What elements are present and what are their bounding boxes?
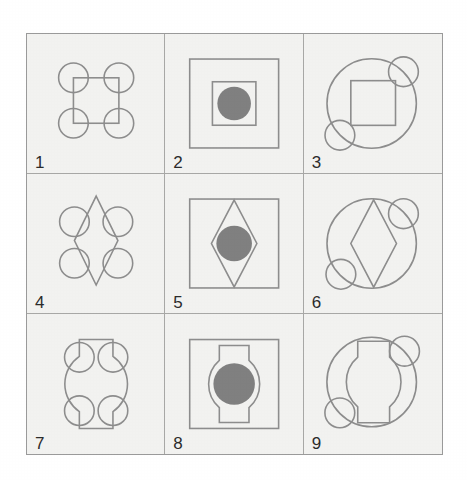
puzzle-cell-2[interactable]: 2	[165, 34, 303, 174]
cell-number-8: 8	[173, 435, 182, 452]
big-circle-shape	[327, 337, 417, 427]
puzzle-cell-4[interactable]: 4	[27, 174, 165, 314]
puzzle-cell-5[interactable]: 5	[165, 174, 303, 314]
cell-number-3: 3	[312, 154, 321, 171]
corner-circle-top-right	[103, 207, 133, 237]
cell-number-2: 2	[173, 154, 182, 171]
cell-number-7: 7	[35, 435, 44, 452]
cell-number-5: 5	[173, 294, 182, 311]
big-circle-shape	[327, 59, 416, 148]
center-dot	[218, 87, 252, 121]
cell-number-1: 1	[35, 154, 44, 171]
barrel-shape	[65, 340, 128, 429]
square-shape	[73, 78, 118, 123]
cell-9-graphic	[304, 314, 442, 454]
small-circle-bottom-left	[326, 259, 356, 289]
cell-4-graphic	[27, 174, 164, 313]
cell-number-6: 6	[312, 294, 321, 311]
puzzle-cell-9[interactable]: 9	[304, 314, 442, 454]
cell-8-graphic	[165, 314, 302, 454]
cell-1-graphic	[27, 34, 164, 173]
cell-2-graphic	[165, 34, 302, 173]
cell-number-4: 4	[35, 294, 44, 311]
corner-circle-top-left	[60, 207, 90, 237]
cell-3-graphic	[304, 34, 442, 173]
puzzle-grid: 1 2 3	[26, 33, 443, 455]
big-circle-shape	[327, 199, 416, 288]
cell-5-graphic	[165, 174, 302, 313]
cell-number-9: 9	[312, 435, 321, 452]
center-dot	[217, 226, 253, 262]
puzzle-cell-1[interactable]: 1	[27, 34, 165, 174]
small-circle-top-right	[388, 199, 418, 229]
puzzle-cell-6[interactable]: 6	[304, 174, 442, 314]
cell-7-graphic	[27, 314, 164, 454]
diamond-shape	[74, 196, 117, 285]
puzzle-cell-3[interactable]: 3	[304, 34, 442, 174]
diamond-shape	[350, 200, 396, 287]
center-dot	[214, 363, 255, 404]
puzzle-cell-8[interactable]: 8	[165, 314, 303, 454]
cell-6-graphic	[304, 174, 442, 313]
matrix-puzzle-figure: 1 2 3	[0, 0, 467, 480]
puzzle-cell-7[interactable]: 7	[27, 314, 165, 454]
square-shape	[350, 81, 395, 126]
